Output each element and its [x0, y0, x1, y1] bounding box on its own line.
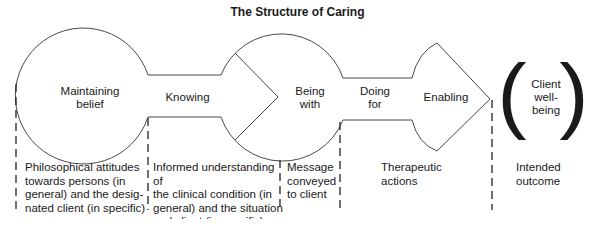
node-knowing: Knowing [160, 91, 215, 104]
being-with-circle-top [221, 34, 343, 78]
node-enabling: Enabling [416, 91, 476, 104]
close-bracket: ) [559, 52, 588, 136]
open-bracket: ( [497, 52, 526, 136]
description-being-with: Message conveyed to client [287, 161, 339, 202]
description-therapeutic-actions: Therapeutic actions [381, 161, 451, 188]
knowing-chevron [235, 53, 278, 140]
node-being-with: Being with [288, 85, 332, 111]
enabling-arrowhead-bottom [412, 99, 490, 151]
description-maintaining-belief: Philosophical attitudes towards persons … [25, 161, 150, 215]
node-doing-for: Doing for [355, 85, 395, 111]
description-knowing: Informed understanding of the clinical c… [153, 161, 283, 219]
description-intended-outcome: Intended outcome [516, 161, 576, 188]
being-with-circle-bottom [221, 117, 343, 161]
node-maintaining-belief: Maintaining belief [55, 85, 125, 111]
